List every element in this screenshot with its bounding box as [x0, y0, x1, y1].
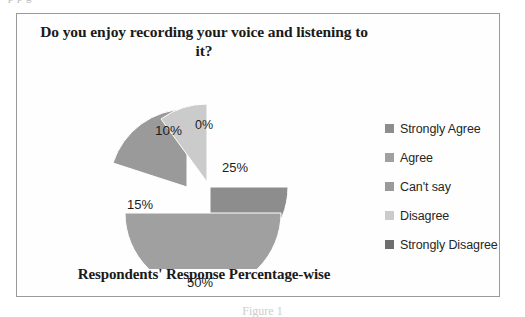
pie-label-cant-say: 15% — [127, 197, 153, 212]
chart-legend: Strongly Agree Agree Can't say Disagree … — [385, 114, 513, 259]
scan-artifact-top-text: p p g — [8, 0, 32, 3]
figure-caption: Figure 1 — [0, 303, 525, 317]
legend-item-agree[interactable]: Agree — [385, 143, 513, 172]
pie-plot-area: 25% 50% 15% 10% 0% — [17, 54, 373, 269]
axis-title: Respondents' Response Percentage-wise — [35, 266, 373, 283]
pie-label-strongly-agree: 25% — [222, 160, 248, 175]
scan-artifact-top: p p g — [0, 0, 525, 12]
legend-item-strongly-agree[interactable]: Strongly Agree — [385, 114, 513, 143]
pie-label-strongly-disagree: 0% — [195, 118, 213, 132]
legend-swatch-icon — [385, 182, 394, 191]
legend-label: Strongly Agree — [400, 122, 481, 136]
legend-swatch-icon — [385, 240, 394, 249]
legend-label: Disagree — [400, 209, 449, 223]
legend-item-strongly-disagree[interactable]: Strongly Disagree — [385, 230, 513, 259]
legend-swatch-icon — [385, 153, 394, 162]
pie-chart-svg — [17, 54, 373, 269]
chart-frame: Do you enjoy recording your voice and li… — [16, 13, 500, 297]
legend-swatch-icon — [385, 124, 394, 133]
pie-label-disagree: 10% — [155, 123, 182, 138]
legend-label: Agree — [400, 151, 433, 165]
legend-label: Strongly Disagree — [400, 238, 498, 252]
figure-caption-text: Figure 1 — [242, 304, 282, 317]
pie-slice-agree[interactable] — [125, 213, 281, 269]
legend-item-disagree[interactable]: Disagree — [385, 201, 513, 230]
legend-label: Can't say — [400, 180, 451, 194]
legend-swatch-icon — [385, 211, 394, 220]
legend-item-cant-say[interactable]: Can't say — [385, 172, 513, 201]
